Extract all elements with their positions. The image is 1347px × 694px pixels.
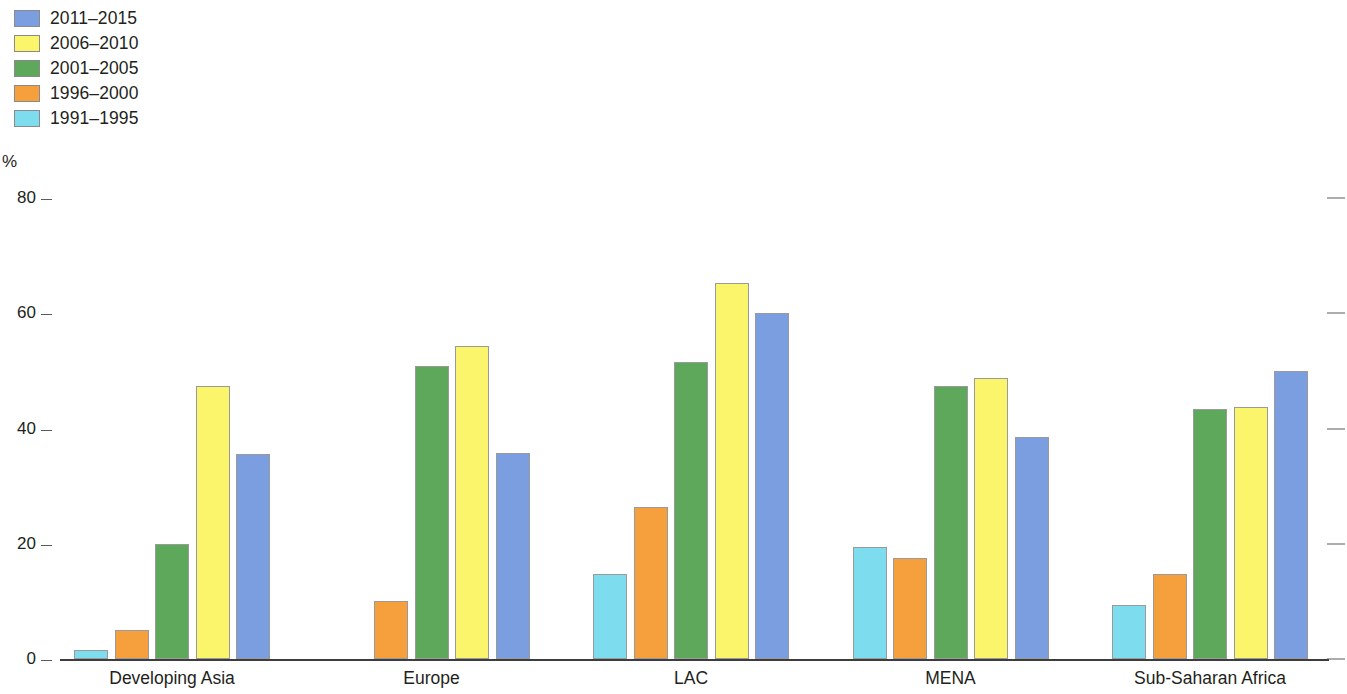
bar (196, 386, 230, 659)
y-axis-tick-mark (41, 430, 52, 431)
bar (674, 362, 708, 659)
y-axis-tick-0: 0 (0, 649, 52, 669)
y-axis-tick-mark (41, 314, 52, 315)
bar (496, 453, 530, 659)
y-axis-tick-label: 60 (17, 303, 36, 322)
bar (893, 558, 927, 659)
bar (1274, 371, 1308, 659)
bar (974, 378, 1008, 659)
y-axis-tick-mark (41, 199, 52, 200)
bar (853, 547, 887, 659)
bar-chart: % 806040200 Developing AsiaEuropeLACMENA… (0, 0, 1347, 694)
bar (155, 544, 189, 659)
x-axis-label-mena: MENA (925, 668, 976, 689)
y-axis-right-tick-0 (1327, 659, 1345, 660)
y-axis-tick-label: 40 (17, 419, 36, 438)
bar (1153, 574, 1187, 659)
bar (634, 507, 668, 659)
bar (74, 650, 108, 659)
bar (934, 386, 968, 659)
x-axis-label-lac: LAC (674, 668, 708, 689)
bar (1015, 437, 1049, 659)
y-axis-tick-20: 20 (0, 534, 52, 554)
y-axis-unit-label: % (2, 152, 17, 172)
bar (236, 454, 270, 659)
y-axis-tick-mark (41, 545, 52, 546)
y-axis-right-tick-40 (1327, 428, 1345, 429)
bar (415, 366, 449, 659)
y-axis-right-tick-80 (1327, 198, 1345, 199)
y-axis-tick-mark (41, 660, 52, 661)
bar (755, 313, 789, 659)
bar (455, 346, 489, 659)
bar (1234, 407, 1268, 659)
y-axis-right-tick-20 (1327, 543, 1345, 544)
y-axis-tick-label: 0 (27, 649, 36, 668)
bar (593, 574, 627, 659)
x-axis-label-developing-asia: Developing Asia (109, 668, 235, 689)
bar (115, 630, 149, 659)
y-axis-tick-60: 60 (0, 303, 52, 323)
y-axis-tick-label: 80 (17, 188, 36, 207)
bar (715, 283, 749, 659)
y-axis-tick-40: 40 (0, 419, 52, 439)
x-axis-label-europe: Europe (403, 668, 459, 689)
x-axis-line (60, 659, 1329, 661)
bar (1112, 605, 1146, 659)
bar (374, 601, 408, 659)
y-axis-right-tick-60 (1327, 313, 1345, 314)
x-axis-label-sub-saharan-africa: Sub-Saharan Africa (1134, 668, 1286, 689)
y-axis-tick-80: 80 (0, 188, 52, 208)
y-axis-tick-label: 20 (17, 534, 36, 553)
bar (1193, 409, 1227, 659)
